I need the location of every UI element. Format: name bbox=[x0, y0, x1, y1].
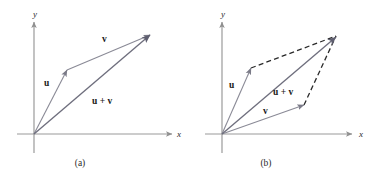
panel-a-x-axis-label: x bbox=[176, 129, 181, 139]
panel-b-x-axis-label: x bbox=[358, 129, 363, 139]
panel-b-vector-u bbox=[222, 68, 251, 134]
vector-addition-figure: y x u v u + v (a) y x u v u + v (b) bbox=[0, 0, 377, 185]
panel-b-vector-u-plus-v bbox=[222, 37, 336, 134]
panel-a-group: y x u v u + v (a) bbox=[17, 9, 181, 169]
panel-b-y-axis-label: y bbox=[220, 9, 225, 19]
panel-a-label-u-plus-v: u + v bbox=[92, 96, 112, 106]
panel-b-caption: (b) bbox=[260, 158, 271, 169]
figure-canvas: y x u v u + v (a) y x u v u + v (b) bbox=[0, 0, 377, 185]
panel-b-group: y x u v u + v (b) bbox=[205, 9, 363, 169]
panel-a-vector-v bbox=[67, 35, 150, 70]
panel-a-vector-u-plus-v bbox=[34, 35, 150, 134]
panel-b-label-u-plus-v: u + v bbox=[273, 87, 293, 97]
panel-a-caption: (a) bbox=[75, 158, 86, 169]
panel-a-vector-u bbox=[34, 70, 67, 134]
panel-a-y-axis-label: y bbox=[32, 9, 37, 19]
panel-b-label-u: u bbox=[229, 80, 235, 90]
panel-a-label-v: v bbox=[102, 34, 107, 44]
panel-a-label-u: u bbox=[44, 78, 50, 88]
panel-b-dashed-u-to-sum bbox=[251, 36, 336, 68]
panel-b-label-v: v bbox=[263, 106, 268, 116]
